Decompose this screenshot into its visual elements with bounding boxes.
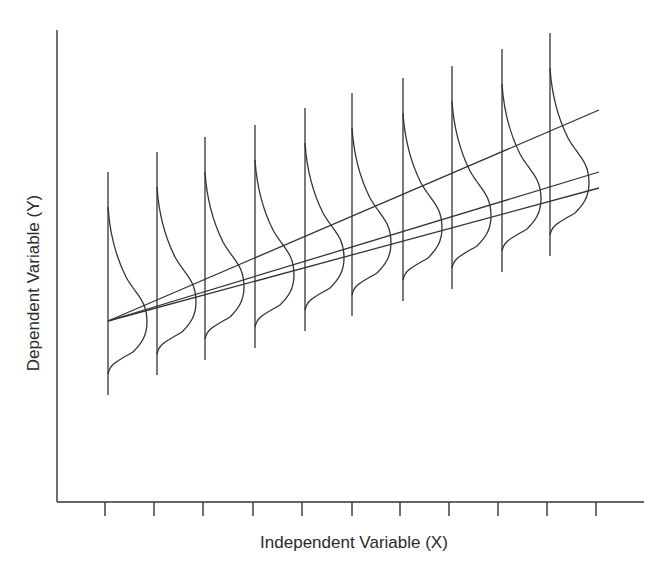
- y-axis-label: Dependent Variable (Y): [24, 195, 43, 371]
- distribution-curve: [403, 113, 442, 280]
- x-axis-ticks: [105, 502, 596, 516]
- distribution-2: [157, 152, 196, 375]
- distribution-curve: [502, 84, 541, 251]
- distribution-curve: [108, 207, 147, 374]
- distribution-10: [550, 33, 589, 256]
- distribution-curve: [352, 128, 391, 295]
- distribution-curve: [205, 172, 244, 339]
- distribution-9: [502, 49, 541, 272]
- regression-distribution-diagram: Independent Variable (X) Dependent Varia…: [0, 0, 664, 580]
- distribution-curve: [157, 187, 196, 354]
- distribution-5: [305, 108, 344, 331]
- distribution-3: [205, 137, 244, 360]
- distribution-curve: [452, 101, 491, 268]
- distribution-6: [352, 93, 391, 316]
- distribution-7: [403, 78, 442, 301]
- regression-line-middle: [108, 172, 599, 321]
- distribution-1: [108, 172, 147, 395]
- conditional-distributions: [108, 33, 589, 395]
- axes: [57, 30, 644, 502]
- distribution-curve: [305, 143, 344, 310]
- distribution-4: [255, 125, 294, 348]
- distribution-curve: [550, 68, 589, 235]
- x-axis-label: Independent Variable (X): [260, 533, 448, 552]
- distribution-8: [452, 66, 491, 289]
- regression-line-shallow: [108, 188, 599, 321]
